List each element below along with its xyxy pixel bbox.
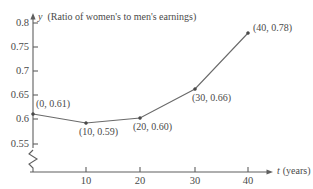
x-axis-arrow-icon [267,169,274,174]
data-point-30 [194,88,197,91]
point-label-20: (20, 0.60) [133,122,172,132]
data-point-markers [32,32,250,125]
y-axis-ticks [33,23,38,144]
chart-screenshot: 0.8 0.75 0.7 0.65 0.6 0.55 10 20 30 40 y… [0,0,313,189]
data-series-line [33,33,248,123]
x-axis-variable: t [277,165,280,176]
x-axis-title: t(years) [277,166,311,176]
y-axis-description: (Ratio of women's to men's earnings) [47,11,196,22]
x-tick-label-20: 20 [126,176,154,187]
point-label-10: (10, 0.59) [79,127,118,137]
y-tick-label-0.6: 0.6 [2,114,29,125]
point-label-40: (40, 0.78) [253,23,292,33]
x-axis-description: (years) [283,165,311,176]
x-tick-label-40: 40 [234,176,262,187]
data-point-40 [247,32,250,35]
y-axis-title: y(Ratio of women's to men's earnings) [38,12,196,22]
data-point-0 [32,113,35,116]
y-tick-label-0.7: 0.7 [2,66,29,77]
y-tick-label-0.55: 0.55 [2,139,29,150]
data-point-10 [85,122,88,125]
y-axis-arrow-icon [30,13,35,20]
point-label-0: (0, 0.61) [36,99,70,109]
x-axis-ticks [86,167,248,172]
y-tick-label-0.65: 0.65 [2,90,29,101]
y-tick-label-0.8: 0.8 [2,18,29,29]
point-label-30: (30, 0.66) [192,93,231,103]
y-axis-variable: y [38,11,42,22]
x-tick-label-10: 10 [72,176,100,187]
y-tick-label-0.75: 0.75 [2,42,29,53]
data-point-20 [139,117,142,120]
x-tick-label-30: 30 [181,176,209,187]
y-axis-break-icon [29,150,37,172]
